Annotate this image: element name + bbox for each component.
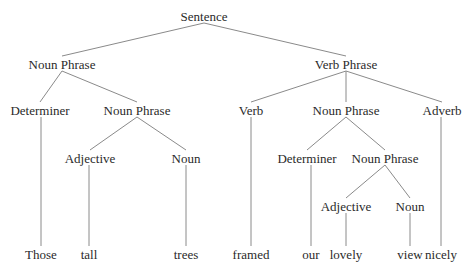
edge-np2-noun1 [137, 117, 186, 150]
word-tall: tall [81, 248, 98, 261]
word-nicely: nicely [425, 248, 457, 261]
edge-np1-np2 [62, 71, 137, 102]
word-view: view [397, 248, 422, 261]
node-sentence: Sentence [181, 10, 228, 23]
node-noun: Noun [172, 152, 201, 165]
edge-np4-noun2 [385, 165, 410, 198]
edge-np2-adj1 [90, 117, 137, 150]
edge-s-np1 [62, 23, 204, 56]
node-noun-phrase: Noun Phrase [104, 104, 171, 117]
word-lovely: lovely [330, 248, 363, 261]
edge-s-vp [204, 23, 346, 56]
node-verb: Verb [239, 104, 264, 117]
edge-np4-adj2 [346, 165, 385, 198]
edge-np1-det1 [40, 71, 62, 102]
tree-edges [0, 0, 469, 270]
word-those: Those [25, 248, 57, 261]
node-noun: Noun [396, 200, 425, 213]
edge-vp-adv [346, 71, 442, 102]
word-framed: framed [233, 248, 270, 261]
word-our: our [302, 248, 319, 261]
edge-np3-det2 [307, 117, 346, 150]
edge-vp-verb [251, 71, 346, 102]
node-noun-phrase: Noun Phrase [352, 152, 419, 165]
node-adverb: Adverb [423, 104, 462, 117]
word-trees: trees [174, 248, 199, 261]
node-verb-phrase: Verb Phrase [315, 58, 377, 71]
node-determiner: Determiner [10, 104, 69, 117]
node-adjective: Adjective [65, 152, 116, 165]
node-noun-phrase: Noun Phrase [313, 104, 380, 117]
node-determiner: Determiner [277, 152, 336, 165]
edge-np3-np4 [346, 117, 385, 150]
node-adjective: Adjective [321, 200, 372, 213]
node-noun-phrase: Noun Phrase [29, 58, 96, 71]
